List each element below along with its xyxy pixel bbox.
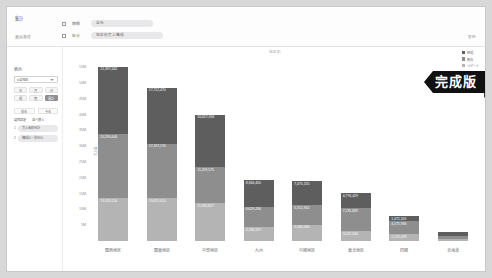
bar-value-label: 17,197,170: [147, 144, 166, 149]
y-axis-tick-label: 5M: [81, 223, 86, 227]
bar-segment[interactable]: 4,776,429: [341, 193, 371, 208]
application-window: 集計 表示条件 期間 全社 区分 地区別売上構成 更新 表示 全地区 年 月 日…: [6, 6, 486, 272]
bar-segment[interactable]: 17,197,170: [147, 144, 177, 198]
field-row-2-value[interactable]: 構成比・前年比: [18, 135, 58, 142]
x-axis-tick-label: 四國: [400, 247, 408, 253]
bar-segment[interactable]: 13,615,014: [147, 198, 177, 241]
x-axis-tick-label: 関西地区: [105, 247, 121, 253]
y-axis-tick-label: 40M: [79, 113, 86, 117]
bar-value-label: 7,235,839: [341, 208, 358, 213]
bar-segment[interactable]: 6,312,944: [292, 205, 322, 225]
y-axis-tick-label: 50M: [79, 81, 86, 85]
x-axis-tick-label: 東北地区: [348, 247, 364, 253]
period-button-day[interactable]: 日: [45, 87, 58, 93]
y-axis-tick-label: 35M: [79, 128, 86, 132]
period-button-week[interactable]: 週: [14, 95, 27, 101]
toolbar-subtitle: 表示条件: [15, 34, 31, 40]
checkbox-filter-category[interactable]: [62, 34, 66, 38]
period-button-year[interactable]: 年: [14, 87, 27, 93]
chart-area: 地区別 新規既存リピート 売上高 55M50M45M40M35M30M25M20…: [63, 47, 486, 272]
bar-segment[interactable]: 13,559,214: [98, 198, 128, 241]
field-row-2-number: 2: [14, 136, 16, 140]
region-select[interactable]: 全地区: [14, 76, 58, 83]
bar-group[interactable]: 17,712,47017,197,17013,615,014関東地区: [147, 61, 177, 241]
bar-group[interactable]: 21,397,44220,295,64613,559,214関西地区: [98, 61, 128, 241]
toolbar-filter-row-1: 期間 全社: [62, 14, 153, 23]
bar-value-label: [438, 236, 440, 238]
bar-segment[interactable]: 11,985,827: [195, 203, 225, 241]
toolbar-right-note[interactable]: 更新: [468, 34, 476, 39]
y-axis-tick-label: 20M: [79, 176, 86, 180]
bar-segment[interactable]: [438, 239, 468, 241]
bar-segment[interactable]: 17,712,470: [147, 88, 177, 144]
top-toolbar: 集計 表示条件 期間 全社 区分 地区別売上構成 更新: [7, 7, 485, 47]
bar-segment[interactable]: 3,072,044: [341, 231, 371, 241]
comparison-button-row: 前年 今年: [14, 108, 58, 114]
bar-value-label: 4,175,936: [389, 221, 406, 226]
comparison-button-this-year[interactable]: 今年: [38, 108, 59, 114]
bar-group[interactable]: 4,776,4297,235,8393,072,044東北地区: [341, 61, 371, 241]
filter-category-value[interactable]: 地区別売上構成: [91, 32, 163, 39]
legend-item-label: 新規: [467, 50, 473, 55]
ribbon-tail-icon: [424, 71, 433, 93]
period-button-total[interactable]: 累計: [45, 95, 58, 101]
bar-segment[interactable]: 16,627,394: [195, 115, 225, 168]
bar-segment[interactable]: 2,123,078: [389, 234, 419, 241]
bar-value-label: 11,985,827: [195, 203, 214, 208]
bar-group[interactable]: 16,627,39411,299,57511,985,827中部地区: [195, 61, 225, 241]
x-axis-tick-label: 九州: [255, 247, 263, 253]
bar-value-label: [438, 239, 440, 241]
bar-segment[interactable]: 20,295,646: [98, 134, 128, 198]
left-control-panel: 表示 全地区 年 月 日 週 期 累計 前年 今年 項目設定 並べ替え 1 売上…: [7, 47, 63, 272]
bar-segment[interactable]: 21,397,442: [98, 67, 128, 135]
bar-group[interactable]: 1,472,1054,175,9362,123,078四國: [389, 61, 419, 241]
y-axis-tick-label: 25M: [79, 160, 86, 164]
bar-value-label: [438, 232, 440, 234]
region-select-value: 全地区: [19, 78, 28, 82]
bar-value-label: 6,629,236: [244, 207, 261, 212]
panel-title: 表示: [14, 66, 22, 72]
bar-value-label: 21,397,442: [98, 67, 117, 72]
y-axis-tick-label: 45M: [79, 97, 86, 101]
period-button-month[interactable]: 月: [29, 87, 42, 93]
bar-value-label: 7,475,155: [292, 181, 309, 186]
bar-group[interactable]: 8,364,4506,629,2364,286,597九州: [244, 61, 274, 241]
bar-group[interactable]: 7,475,1556,312,9445,080,586中國地区: [292, 61, 322, 241]
bar-value-label: 20,295,646: [98, 134, 117, 139]
field-row-1-number: 1: [14, 126, 16, 130]
bar-segment[interactable]: 11,299,575: [195, 167, 225, 203]
bar-segment[interactable]: 6,629,236: [244, 207, 274, 228]
bar-value-label: 5,080,586: [292, 225, 309, 230]
status-badge-label: 完成版: [433, 71, 485, 93]
bar-segment[interactable]: 4,286,597: [244, 227, 274, 241]
ribbon-fold-icon: [484, 93, 486, 98]
bar-value-label: 4,776,429: [341, 193, 358, 198]
field-row-1: 1 売上金額合計: [14, 125, 58, 132]
select-bullet-icon: [17, 79, 19, 81]
bar-segment[interactable]: 7,235,839: [341, 208, 371, 231]
bar-segment[interactable]: 7,475,155: [292, 181, 322, 205]
field-label-settings: 項目設定: [14, 117, 26, 122]
bar-segment[interactable]: 4,175,936: [389, 221, 419, 234]
bar-value-label: 3,072,044: [341, 231, 358, 236]
bar-value-label: 8,364,450: [244, 180, 261, 185]
field-section-labels: 項目設定 並べ替え: [14, 117, 60, 122]
period-button-term[interactable]: 期: [29, 95, 42, 101]
chart-title: 地区別: [269, 49, 281, 54]
comparison-button-last-year[interactable]: 前年: [14, 108, 35, 114]
bar-value-label: 17,712,470: [147, 88, 166, 93]
field-row-1-value[interactable]: 売上金額合計: [18, 125, 58, 132]
period-button-grid: 年 月 日 週 期 累計: [14, 87, 58, 101]
y-axis-tick-label: 10M: [79, 207, 86, 211]
bar-value-label: 16,627,394: [195, 115, 214, 120]
bar-segment[interactable]: 5,080,586: [292, 225, 322, 241]
bar-segment[interactable]: 8,364,450: [244, 180, 274, 206]
plot-area: 売上高 55M50M45M40M35M30M25M20M15M10M5M 21,…: [89, 61, 477, 241]
toolbar-title: 集計: [15, 15, 23, 21]
x-axis-tick-label: 北海道: [447, 247, 459, 253]
legend-item[interactable]: 新規: [462, 50, 479, 55]
bar-value-label: 4,286,597: [244, 227, 261, 232]
x-axis-tick-label: 関東地区: [154, 247, 170, 253]
x-axis-tick-label: 中國地区: [299, 247, 315, 253]
toolbar-filter-row-2: 区分 地区別売上構成: [62, 26, 163, 35]
